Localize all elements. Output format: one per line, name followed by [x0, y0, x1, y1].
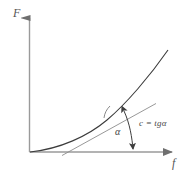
tangent-line	[62, 104, 156, 156]
figure-canvas: F f α c = tgα	[0, 0, 190, 179]
alpha-angle-label: α	[115, 127, 120, 137]
alpha-angle-arc	[104, 106, 110, 118]
curve-F-of-f	[30, 50, 168, 152]
slope-formula-label: c = tgα	[139, 119, 167, 128]
x-axis-label: f	[172, 157, 175, 169]
y-axis-label: F	[13, 7, 20, 19]
chart-svg	[0, 0, 190, 179]
